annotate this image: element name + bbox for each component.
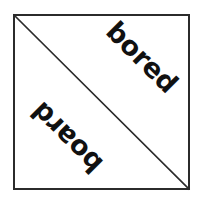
figure-canvas: bored board [0,0,203,205]
